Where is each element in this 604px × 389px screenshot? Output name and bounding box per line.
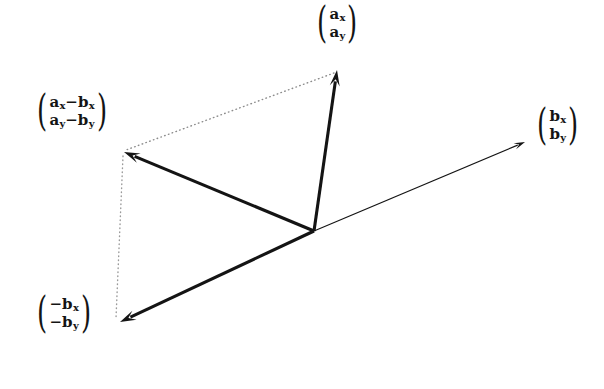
vector-b-components: bx by <box>549 108 566 143</box>
vector-a-components: ax ay <box>329 6 345 41</box>
vector-negative-b-row-x: −bx <box>49 296 78 314</box>
paren-open: ( <box>37 296 47 330</box>
vector-b-label: ( bx by ) <box>534 108 581 143</box>
vector-a-minus-b-components: ax−bx ay−by <box>49 94 94 129</box>
vector-a-shaft <box>314 81 335 231</box>
vector-diagram-figure: ( ax ay ) ( bx by ) ( ax−bx ay−by ) ( −b… <box>0 0 604 389</box>
paren-open: ( <box>37 94 47 128</box>
vector-negative-b-shaft <box>130 231 314 317</box>
vector-a-minus-b-row-y: ay−by <box>49 112 94 130</box>
vector-a-label: ( ax ay ) <box>314 6 361 41</box>
vector-b-row-x: bx <box>549 108 566 126</box>
vector-a-row-y: ay <box>329 24 345 42</box>
vector-negative-b-row-y: −by <box>49 314 78 332</box>
dotted-a-minus-b-tip-to-negative-b-tip <box>116 156 123 318</box>
vector-arrows-group <box>120 70 525 322</box>
vector-negative-b-components: −bx −by <box>49 296 78 331</box>
vector-a-minus-b-row-x: ax−bx <box>49 94 94 112</box>
vector-a-minus-b-label: ( ax−bx ay−by ) <box>34 94 110 129</box>
vector-b-row-y: by <box>549 126 566 144</box>
dotted-a-tip-to-a-minus-b-tip <box>126 73 334 150</box>
vector-b-shaft <box>314 145 518 231</box>
vector-negative-b-label: ( −bx −by ) <box>34 296 94 331</box>
paren-open: ( <box>317 6 327 40</box>
vector-a-row-x: ax <box>329 6 345 24</box>
paren-open: ( <box>537 108 547 142</box>
paren-close: ) <box>97 94 107 128</box>
vector-a-minus-b-shaft <box>135 156 314 231</box>
paren-close: ) <box>81 296 91 330</box>
paren-close: ) <box>568 108 578 142</box>
paren-close: ) <box>347 6 357 40</box>
